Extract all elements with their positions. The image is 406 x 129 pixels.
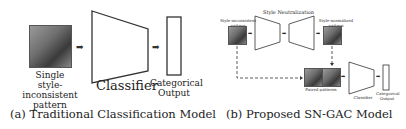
paired-face-image-1 <box>304 68 323 87</box>
arrow-icon: ➡ <box>248 30 252 36</box>
paired-face-image-2 <box>322 68 341 87</box>
input-label: Single style-inconsistent pattern <box>14 70 86 110</box>
normalized-face-image <box>323 26 342 45</box>
input-face-image <box>29 25 72 68</box>
output-label-b: Categorical Output <box>376 91 398 101</box>
style-neutralization-label: Style Neutralization <box>263 9 314 15</box>
arrow-icon: ➡ <box>152 42 160 52</box>
arrow-icon: ➡ <box>341 73 345 79</box>
inconsistent-face-image <box>228 26 247 45</box>
arrow-icon: ➡ <box>282 30 286 36</box>
classifier-label: Classifier <box>96 78 158 93</box>
output-label: Categorical Output <box>150 78 198 98</box>
arrow-icon: ➡ <box>76 42 84 52</box>
caption-a: (a) Traditional Classification Model <box>10 107 216 121</box>
paired-patterns-label: Paired patterns <box>303 87 339 92</box>
arrow-icon: ➡ <box>316 30 320 36</box>
caption-b: (b) Proposed SN-GAC Model <box>226 107 392 121</box>
classifier-label-b: Classifier <box>352 95 374 100</box>
arrow-icon: ➡ <box>376 73 380 79</box>
